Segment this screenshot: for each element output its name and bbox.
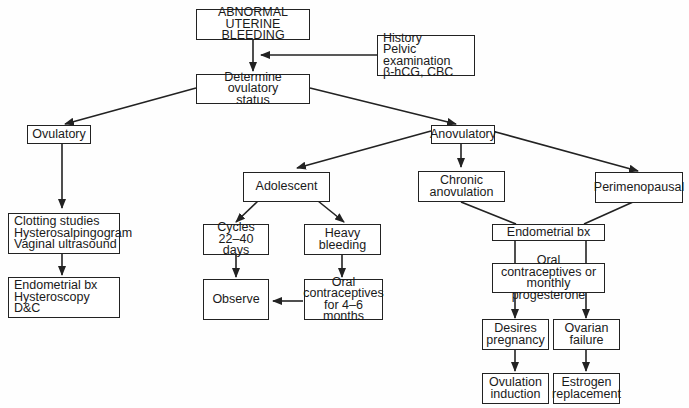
- node-heavy-bleeding: Heavy bleeding: [304, 224, 381, 255]
- node-endometrial-bx: Endometrial bx: [492, 224, 605, 241]
- node-ovulation-induction: Ovulation induction: [482, 373, 549, 404]
- node-ovarian-failure: Ovarian failure: [553, 319, 620, 350]
- node-endometrial-bx-hysteroscopy: Endometrial bx Hysteroscopy D&C: [8, 277, 120, 318]
- node-history-workup: History Pelvic examination β-hCG, CBC: [377, 35, 475, 76]
- flowchart-canvas: ABNORMAL UTERINE BLEEDING History Pelvic…: [0, 0, 689, 408]
- node-abnormal-uterine-bleeding: ABNORMAL UTERINE BLEEDING: [196, 9, 310, 40]
- node-ovulatory: Ovulatory: [27, 125, 91, 144]
- node-adolescent: Adolescent: [243, 172, 330, 202]
- node-desires-pregnancy: Desires pregnancy: [482, 319, 549, 350]
- node-estrogen-replacement: Estrogen replacement: [553, 373, 620, 404]
- node-perimenopausal: Perimenopausal: [595, 172, 683, 203]
- node-chronic-anovulation: Chronic anovulation: [418, 171, 505, 202]
- node-cycles-22-40-days: Cycles 22–40 days: [203, 224, 269, 255]
- node-observe: Observe: [203, 279, 269, 320]
- node-determine-ovulatory-status: Determine ovulatory status: [196, 74, 310, 104]
- node-oral-contraceptives-4-6-months: Oral contraceptives for 4–6 months: [304, 279, 383, 320]
- node-oral-contraceptives-or-progesterone: Oral contraceptives or monthly progester…: [492, 263, 605, 293]
- node-anovulatory: Anovulatory: [431, 125, 495, 144]
- node-clotting-studies: Clotting studies Hysterosalpingogram Vag…: [8, 213, 120, 254]
